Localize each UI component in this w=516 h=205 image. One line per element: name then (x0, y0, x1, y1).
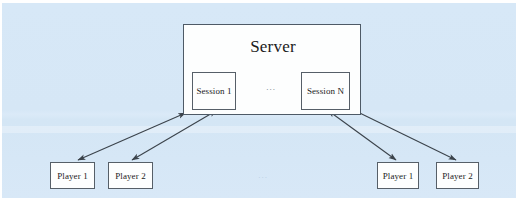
player-node-right-2: Player 2 (436, 162, 479, 189)
player-groups-ellipsis: ... (248, 170, 278, 180)
arrow-session1-to-player-left-1 (78, 113, 186, 160)
session-node-1: Session 1 (192, 72, 236, 110)
diagram-canvas: Server Session 1 ... Session N Player 1 … (0, 0, 516, 205)
player-node-right-2-label: Player 2 (442, 171, 473, 181)
server-title: Server (184, 37, 362, 57)
player-node-left-1: Player 1 (50, 162, 95, 189)
player-node-left-2-label: Player 2 (115, 171, 146, 181)
session-node-n: Session N (301, 72, 350, 110)
player-node-left-1-label: Player 1 (57, 171, 88, 181)
player-node-right-1: Player 1 (377, 162, 419, 189)
session-node-1-label: Session 1 (196, 86, 231, 96)
player-node-left-2: Player 2 (108, 162, 153, 189)
arrow-sessionN-to-player-right-2 (351, 109, 457, 161)
sessions-ellipsis: ... (258, 82, 284, 92)
player-node-right-1-label: Player 1 (383, 171, 414, 181)
arrow-sessionN-to-player-right-1 (328, 111, 396, 161)
session-node-n-label: Session N (307, 86, 344, 96)
